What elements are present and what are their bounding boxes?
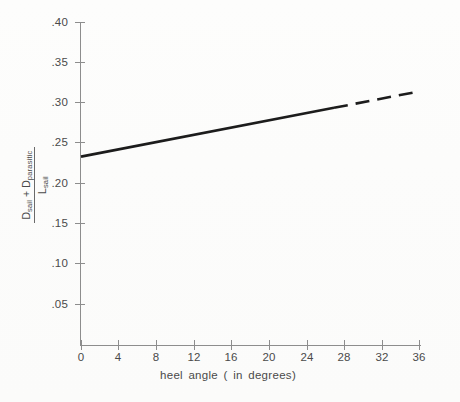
data-line-solid — [81, 108, 334, 157]
denominator-symbol: L — [36, 188, 48, 194]
numerator-subscript-2: parasitic — [25, 150, 34, 180]
plot-area: .40 .35 .30 .25 .20 .15 .10 .05 0 4 8 12… — [0, 0, 460, 402]
chart-figure: .40 .35 .30 .25 .20 .15 .10 .05 0 4 8 12… — [0, 0, 460, 402]
numerator-plus-sign: + — [20, 188, 32, 200]
x-axis-title: heel angle ( in degrees) — [118, 369, 338, 381]
denominator-subscript: sail — [41, 176, 50, 188]
data-line-dashed — [334, 92, 414, 107]
y-axis-fraction: Dsail+Dparasitic Lsail — [20, 147, 49, 222]
y-axis-numerator: Dsail+Dparasitic — [20, 147, 34, 222]
numerator-subscript-1: sail — [25, 200, 34, 212]
y-axis-title: Dsail+Dparasitic Lsail — [19, 123, 49, 247]
numerator-symbol-1: D — [20, 212, 32, 220]
data-series-line — [0, 0, 460, 402]
y-axis-denominator: Lsail — [35, 173, 49, 197]
numerator-symbol-2: D — [20, 180, 32, 188]
